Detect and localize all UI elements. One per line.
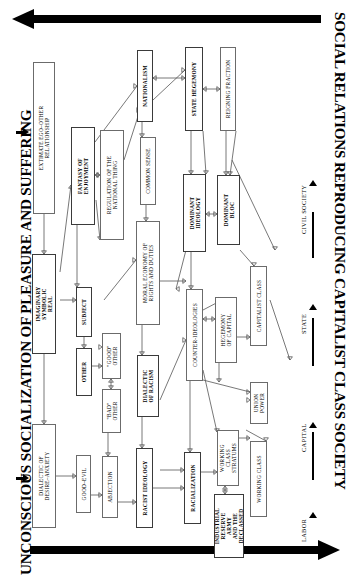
node-goodevil: GOOD–EVIL xyxy=(76,455,91,513)
node-abjection: ABJECTION xyxy=(102,456,118,518)
node-extimate: EXTIMATE EGO–OTHERRELATIONSHIP xyxy=(33,62,55,214)
node-subject: SUBJECT xyxy=(76,287,92,337)
node-imaginary: IMAGINARYSYMBOLICREAL xyxy=(32,254,56,354)
node-label: ABJECTION xyxy=(107,471,113,503)
node-label: WORKING CLASS xyxy=(255,455,261,502)
node-label: OTHER xyxy=(81,362,87,383)
node-label: RACIALIZATION xyxy=(189,464,195,511)
node-reigning: REIGNING FRACTION xyxy=(220,47,236,131)
node-common: COMMON SENSE xyxy=(140,137,156,205)
node-label: WORKINGCLASSSTRATUMS xyxy=(219,443,237,473)
node-label: REGULATION OF THENATIONAL THING xyxy=(106,156,118,214)
node-label: "BAD"OTHER xyxy=(105,401,117,420)
node-label: "GOOD"OTHER xyxy=(105,345,117,366)
node-industrial: INDUSTRIALRESERVEARMYAND THEDECLASSED xyxy=(214,494,244,558)
node-goodother: "GOOD"OTHER xyxy=(102,333,121,379)
node-label: UNIONPOWER xyxy=(253,393,265,413)
node-label: FANTASY OFENJOYMENT xyxy=(77,158,89,195)
node-label: IMAGINARYSYMBOLICREAL xyxy=(35,286,53,321)
node-domideo: DOMINANTIDEOLOGY xyxy=(183,174,206,252)
node-fantasy: FANTASY OFENJOYMENT xyxy=(71,127,95,225)
node-label: GOOD–EVIL xyxy=(80,468,86,501)
node-other: OTHER xyxy=(76,348,92,396)
node-unionpow: UNIONPOWER xyxy=(250,382,268,424)
node-label: SUBJECT xyxy=(81,299,87,325)
node-moral: MORAL ECONOMY OFRIGHTS AND DUTIES xyxy=(136,221,160,325)
node-label: EXTIMATE EGO–OTHERRELATIONSHIP xyxy=(38,106,50,171)
node-label: DIALECTIC OFDESIRE–ANXIETY xyxy=(38,451,50,500)
node-label: CAPITALIST CLASS xyxy=(255,280,261,332)
node-label: COMMON SENSE xyxy=(145,148,151,194)
node-label: INDUSTRIALRESERVEARMYAND THEDECLASSED xyxy=(214,508,244,544)
node-label: NATIONALISM xyxy=(142,65,148,107)
node-label: RACIST IDEOLOGY xyxy=(141,460,147,515)
node-statehege: STATE HEGEMONY xyxy=(185,47,203,131)
node-workclass: WORKING CLASS xyxy=(250,441,267,517)
node-counter: COUNTER-IDEOLOGIES xyxy=(186,289,203,381)
node-racializ: RACIALIZATION xyxy=(184,452,201,524)
node-regnat: REGULATION OF THENATIONAL THING xyxy=(100,130,124,240)
node-label: COUNTER-IDEOLOGIES xyxy=(191,303,197,367)
node-label: DIALECTICOF RACISM xyxy=(142,370,154,403)
node-badother: "BAD"OTHER xyxy=(102,389,121,433)
node-dialdes: DIALECTIC OFDESIRE–ANXIETY xyxy=(32,424,56,528)
node-capclass: CAPITALIST CLASS xyxy=(250,266,267,346)
node-label: HEGEMONYOF CAPITAL xyxy=(220,313,232,346)
node-dialrac: DIALECTICOF RACISM xyxy=(137,355,159,417)
node-label: STATE HEGEMONY xyxy=(191,62,197,116)
node-nationalism: NATIONALISM xyxy=(137,50,153,122)
node-label: REIGNING FRACTION xyxy=(225,60,231,119)
node-label: MORAL ECONOMY OFRIGHTS AND DUTIES xyxy=(142,243,154,303)
node-label: DOMINANTBLOC xyxy=(222,194,234,227)
node-racist: RACIST IDEOLOGY xyxy=(136,448,153,528)
node-workstrat: WORKINGCLASSSTRATUMS xyxy=(217,430,239,486)
node-domibloc: DOMINANTBLOC xyxy=(217,175,240,245)
node-label: DOMINANTIDEOLOGY xyxy=(188,197,200,230)
diagram-canvas: UNCONSCIOUS SOCIALIZATION OF PLEASURE AN… xyxy=(0,0,354,581)
node-hegecap: HEGEMONYOF CAPITAL xyxy=(215,297,237,363)
